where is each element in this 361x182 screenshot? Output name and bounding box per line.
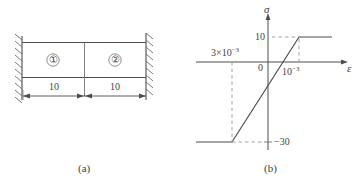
element-1-label: ① — [49, 56, 58, 66]
x-axis-label-epsilon: ε — [347, 63, 351, 74]
x-tick-label-compressive-yield-strain: 3×10−3 — [211, 47, 239, 58]
x-tick-mantissa-left: 3×10 — [211, 47, 232, 58]
origin-label: 0 — [258, 63, 263, 73]
x-tick-exponent-right: −3 — [292, 65, 299, 73]
x-tick-mantissa-right: 10 — [282, 66, 292, 77]
caption-panel-a: (a) — [78, 163, 90, 174]
figure-root: ① ② 10 10 (a) σ ε 0 10 −30 3×10−3 10−3 (… — [0, 0, 361, 182]
fixed-left-wall — [15, 34, 22, 103]
dimension-left-label: 10 — [49, 82, 59, 92]
y-axis-label-sigma: σ — [264, 4, 269, 15]
element-2-label: ② — [111, 56, 120, 66]
fixed-right-wall — [146, 33, 153, 100]
caption-panel-b: (b) — [264, 163, 277, 174]
bar-body — [22, 43, 146, 78]
panel-a-group — [15, 33, 153, 103]
panel-b-group — [196, 13, 348, 150]
y-axis-sigma — [266, 13, 271, 150]
x-axis-epsilon — [196, 60, 348, 65]
y-tick-label-10: 10 — [255, 32, 265, 42]
x-tick-label-tensile-yield-strain: 10−3 — [282, 66, 299, 77]
dimension-right-label: 10 — [110, 82, 120, 92]
y-tick-label-minus-30: −30 — [274, 137, 290, 147]
x-tick-exponent-left: −3 — [232, 46, 239, 54]
